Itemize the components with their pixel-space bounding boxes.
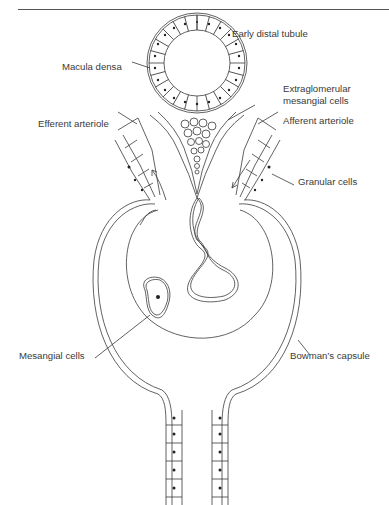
label-bowmans-capsule: Bowman’s capsule <box>290 350 370 361</box>
label-afferent-arteriole: Afferent arteriole <box>283 115 354 126</box>
label-extraglomerular-line1: Extraglomerular <box>283 83 351 94</box>
kidney-diagram <box>0 0 389 505</box>
label-extraglomerular-line2: mesangial cells <box>283 95 349 106</box>
label-macula-densa: Macula densa <box>62 61 122 72</box>
label-early-distal-tubule: Early distal tubule <box>232 28 308 39</box>
label-granular-cells: Granular cells <box>298 176 357 187</box>
label-mesangial-cells: Mesangial cells <box>19 350 85 361</box>
label-efferent-arteriole: Efferent arteriole <box>38 118 109 129</box>
